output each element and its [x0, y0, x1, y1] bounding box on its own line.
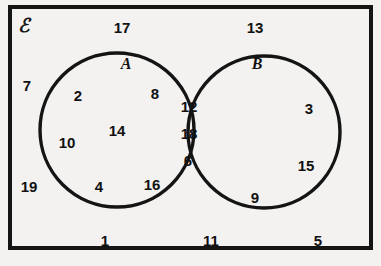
set-b-circle: [188, 56, 340, 208]
venn-diagram-container: ℰ A B 2 8 10 14 4 16 12 18 6 3 15 9 17 1…: [0, 0, 381, 266]
set-b-label: B: [252, 56, 263, 72]
element-intersection: 18: [181, 126, 198, 141]
element-outside: 7: [23, 78, 31, 93]
element-a-only: 4: [95, 179, 103, 194]
element-a-only: 16: [144, 177, 161, 192]
element-a-only: 10: [59, 135, 76, 150]
element-a-only: 14: [109, 123, 126, 138]
element-b-only: 15: [298, 158, 315, 173]
element-outside: 1: [101, 233, 109, 248]
element-outside: 11: [203, 233, 219, 248]
universal-set-symbol: ℰ: [18, 16, 30, 35]
element-outside: 5: [314, 233, 322, 248]
element-outside: 13: [247, 20, 264, 35]
set-a-label: A: [121, 56, 132, 72]
element-outside: 17: [114, 20, 131, 35]
element-intersection: 12: [181, 99, 198, 114]
element-b-only: 9: [251, 190, 259, 205]
element-intersection: 6: [184, 153, 192, 168]
element-b-only: 3: [305, 101, 313, 116]
element-a-only: 2: [74, 88, 82, 103]
element-a-only: 8: [151, 86, 159, 101]
element-outside: 19: [21, 179, 38, 194]
